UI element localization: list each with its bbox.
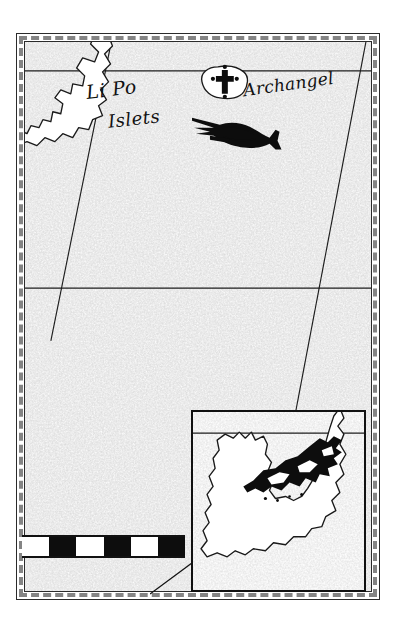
scale-bar-segment bbox=[131, 537, 158, 556]
scale-bar-segment bbox=[22, 537, 49, 556]
scale-bar-segment bbox=[76, 537, 103, 556]
locator-inset bbox=[191, 410, 366, 592]
scale-bar-segment bbox=[49, 537, 76, 556]
cross-island-symbol bbox=[202, 65, 248, 99]
scale-bar bbox=[22, 535, 185, 558]
scale-bar-segment bbox=[158, 537, 185, 556]
scale-bar-segment bbox=[104, 537, 131, 556]
map-figure: Li Po Islets Archangel bbox=[0, 0, 397, 638]
inset-leader-line bbox=[150, 560, 196, 596]
inset-artwork bbox=[193, 412, 364, 590]
